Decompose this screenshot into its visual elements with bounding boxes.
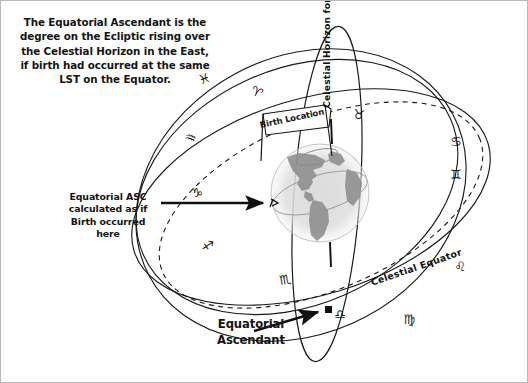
celestial-horizon-label: Celestial Horizon for Equatorial positio… bbox=[321, 0, 332, 108]
glyph-sagittarius: ♐ bbox=[201, 237, 215, 254]
diagram-canvas: ♓♈♉♊♋♌♍♎♏♐♑♒ The Equatorial Ascendant is… bbox=[0, 0, 528, 383]
glyph-taurus: ♉ bbox=[352, 106, 366, 123]
glyph-capricorn: ♑ bbox=[191, 185, 203, 200]
glyph-scorpio: ♏ bbox=[278, 271, 292, 288]
glyph-gemini: ♊ bbox=[450, 167, 462, 182]
intro-paragraph: The Equatorial Ascendant is the degree o… bbox=[9, 15, 221, 86]
glyph-cancer: ♋ bbox=[450, 134, 462, 149]
equatorial-ascendant-label: Equatorial Ascendant bbox=[197, 316, 305, 348]
equatorial-asc-note: Equatorial ASC calculated as if Birth oc… bbox=[56, 191, 160, 241]
glyph-virgo: ♍ bbox=[403, 312, 415, 327]
glyph-leo: ♌ bbox=[454, 259, 466, 274]
earth-globe bbox=[268, 144, 372, 242]
equatorial-ascendant-marker bbox=[325, 306, 332, 313]
glyph-aries: ♈ bbox=[248, 83, 265, 102]
glyph-libra: ♎ bbox=[334, 307, 346, 322]
